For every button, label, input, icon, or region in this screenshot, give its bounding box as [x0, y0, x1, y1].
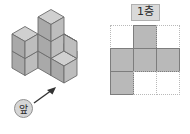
figure-canvas: 앞 1층 앞 [0, 0, 190, 134]
grid-cell-r1c1 [133, 48, 157, 72]
grid-cell-r2c0 [110, 71, 134, 95]
front-direction-arrow-icon [32, 86, 58, 106]
grid-cells [111, 26, 180, 95]
isometric-cube-stack [6, 6, 92, 92]
grid-cell-r0c2 [156, 25, 180, 49]
grid-cell-r0c1 [133, 25, 157, 49]
cube [12, 27, 38, 59]
cube [38, 10, 64, 42]
grid-cell-r2c1 [133, 71, 157, 95]
base-plan-grid [111, 26, 180, 95]
base-plan-panel: 1층 앞 [98, 0, 190, 134]
grid-cell-r2c2 [156, 71, 180, 95]
grid-cell-r0c0 [110, 25, 134, 49]
floor-label: 1층 [131, 4, 160, 21]
front-label-badge-left: 앞 [14, 99, 33, 118]
grid-cell-r1c0 [110, 48, 134, 72]
grid-cell-r1c2 [156, 48, 180, 72]
isometric-figure-panel: 앞 [0, 0, 98, 134]
